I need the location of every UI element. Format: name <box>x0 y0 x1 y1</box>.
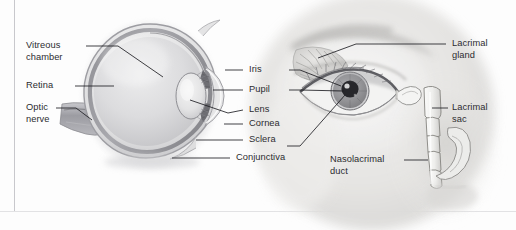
label-lens: Lens <box>249 104 269 116</box>
eye-anatomy-figure: Vitreous chamber Retina Optic nerve Iris… <box>0 0 516 230</box>
label-iris: Iris <box>249 64 262 76</box>
eyeball-cross-section-illustration <box>60 20 224 169</box>
label-lacrimal-sac: Lacrimal sac <box>452 102 488 125</box>
label-conjunctiva: Conjunctiva <box>236 152 285 164</box>
label-cornea: Cornea <box>249 118 280 130</box>
label-optic-nerve: Optic nerve <box>26 102 50 125</box>
label-vitreous-chamber: Vitreous chamber <box>26 40 63 63</box>
label-pupil: Pupil <box>249 84 270 96</box>
label-nasolacrimal-duct: Nasolacrimal duct <box>330 154 384 177</box>
label-sclera: Sclera <box>249 134 276 146</box>
label-retina: Retina <box>26 80 53 92</box>
label-lacrimal-gland: Lacrimal gland <box>452 38 488 61</box>
